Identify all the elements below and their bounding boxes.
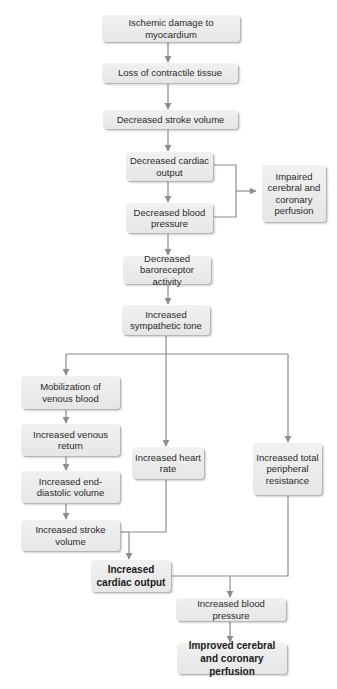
node-impaired-perfusion: Impaired cerebral and coronary perfusion (262, 165, 326, 222)
node-loss-contractile-tissue: Loss of contractile tissue (102, 63, 238, 83)
flowchart: Ischemic damage to myocardium Loss of co… (0, 0, 337, 689)
node-increased-cardiac-output: Increased cardiac output (91, 560, 171, 592)
node-increased-heart-rate: Increased heart rate (132, 447, 204, 479)
node-increased-sympathetic-tone: Increased sympathetic tone (122, 305, 210, 335)
node-increased-end-diastolic-volume: Increased end-diastolic volume (21, 471, 120, 503)
node-mobilization-venous-blood: Mobilization of venous blood (21, 376, 120, 409)
node-increased-total-peripheral-resistance: Increased total peripheral resistance (253, 443, 322, 495)
node-decreased-cardiac-output: Decreased cardiac output (126, 152, 213, 181)
node-decreased-stroke-volume: Decreased stroke volume (103, 110, 238, 129)
node-decreased-blood-pressure: Decreased blood pressure (126, 203, 213, 233)
node-increased-venous-return: Increased venous return (21, 424, 120, 456)
node-increased-stroke-volume: Increased stroke volume (21, 520, 120, 551)
node-increased-blood-pressure: Increased blood pressure (176, 598, 286, 621)
node-decreased-baroreceptor-activity: Decreased baroreceptor activity (123, 256, 211, 284)
node-ischemic-damage: Ischemic damage to myocardium (102, 15, 240, 42)
node-improved-perfusion: Improved cerebral and coronary perfusion (177, 643, 287, 674)
